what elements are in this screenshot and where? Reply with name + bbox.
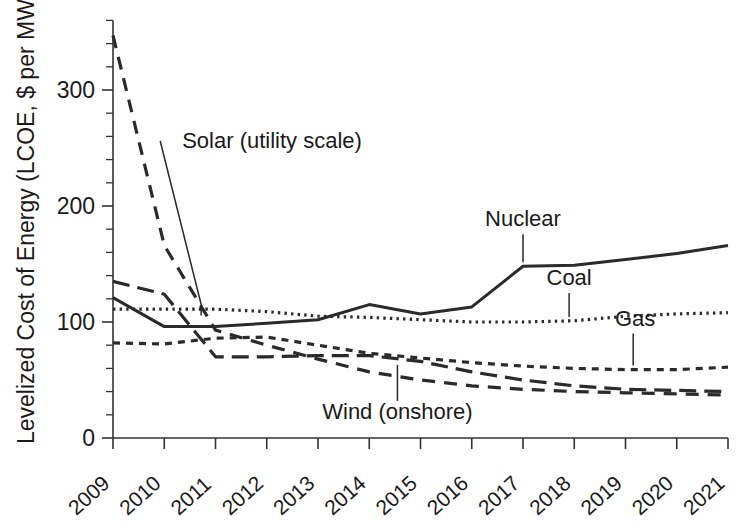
y-axis-ticks [102,20,113,438]
x-tick-label: 2013 [269,471,319,519]
x-tick-label: 2019 [576,471,626,519]
series-label-gas: Gas [615,306,655,331]
y-axis-tick-labels: 0100200300 [57,77,95,451]
x-tick-label: 2010 [115,471,165,519]
leader-line-solar [160,141,201,315]
series-label-nuclear: Nuclear [485,206,561,231]
x-tick-label: 2014 [320,471,370,520]
series-lines [113,36,728,396]
x-tick-label: 2015 [371,471,421,519]
x-axis-tick-labels: 2009201020112012201320142015201620172018… [64,471,729,520]
x-tick-label: 2020 [627,471,677,519]
chart-canvas: Levelized Cost of Energy (LCOE, $ per MW… [0,0,752,528]
series-line-wind-onshore [113,281,728,391]
y-axis-title: Levelized Cost of Energy (LCOE, $ per MW… [13,0,39,444]
x-axis-ticks [113,438,728,449]
series-label-solar: Solar (utility scale) [182,128,362,153]
x-tick-label: 2009 [64,471,114,519]
y-tick-label: 200 [57,193,95,219]
y-tick-label: 100 [57,309,95,335]
lcoe-line-chart: Levelized Cost of Energy (LCOE, $ per MW… [0,0,752,528]
x-tick-label: 2017 [474,471,524,519]
x-tick-label: 2018 [525,471,575,519]
x-tick-label: 2012 [217,471,267,519]
x-tick-label: 2011 [166,472,215,519]
series-line-solar-utility-scale [113,36,728,396]
series-label-coal: Coal [547,265,592,290]
series-label-wind: Wind (onshore) [322,399,472,424]
x-tick-label: 2021 [679,471,729,519]
y-tick-label: 0 [82,425,95,451]
x-tick-label: 2016 [422,471,472,519]
y-tick-label: 300 [57,77,95,103]
